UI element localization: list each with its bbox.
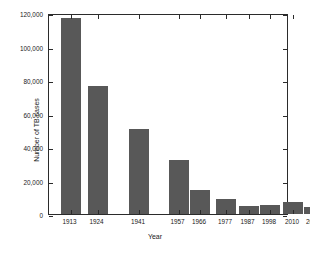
x-tick-label-2019: 2019	[306, 218, 310, 225]
x-tick-label-1957: 1957	[170, 218, 184, 225]
y-tick-right	[283, 116, 287, 117]
x-tick-label-1966: 1966	[192, 218, 206, 225]
plot-area	[48, 14, 288, 215]
y-tick-right	[283, 82, 287, 83]
y-tick-right	[283, 15, 287, 16]
tb-cases-bar-chart: 020,00040,00060,00080,000100,000120,000 …	[0, 0, 310, 260]
bar-1941	[129, 129, 149, 214]
bar-1924	[88, 86, 108, 214]
x-tick	[71, 210, 72, 214]
y-tick	[49, 82, 53, 83]
y-tick	[49, 49, 53, 50]
y-tick-label: 80,000	[0, 78, 43, 85]
x-tick-label-1998: 1998	[262, 218, 276, 225]
y-tick-right	[283, 216, 287, 217]
y-tick-right	[283, 149, 287, 150]
bar-1913	[61, 18, 81, 214]
x-tick-label-1913: 1913	[62, 218, 76, 225]
x-tick-top	[226, 15, 227, 19]
x-tick	[98, 210, 99, 214]
x-tick	[200, 210, 201, 214]
y-axis-title: Number of TB cases	[33, 98, 40, 162]
x-tick-label-1924: 1924	[89, 218, 103, 225]
y-tick	[49, 149, 53, 150]
y-tick-label: 120,000	[0, 11, 43, 18]
bar-2019	[304, 207, 310, 214]
y-tick-label: 100,000	[0, 44, 43, 51]
y-tick-right	[283, 183, 287, 184]
x-axis-title: Year	[0, 233, 310, 240]
x-tick-top	[200, 15, 201, 19]
y-tick	[49, 216, 53, 217]
x-tick	[293, 210, 294, 214]
x-tick-top	[293, 15, 294, 19]
x-tick	[270, 210, 271, 214]
y-tick	[49, 15, 53, 16]
x-tick-top	[270, 15, 271, 19]
x-tick	[226, 210, 227, 214]
bar-1957	[169, 160, 189, 214]
x-tick-label-1987: 1987	[240, 218, 254, 225]
y-tick-label: 20,000	[0, 178, 43, 185]
x-tick	[249, 210, 250, 214]
x-tick-label-1941: 1941	[131, 218, 145, 225]
y-tick-right	[283, 49, 287, 50]
x-tick-top	[98, 15, 99, 19]
bars-layer	[49, 15, 287, 214]
x-tick-top	[249, 15, 250, 19]
x-tick-label-2010: 2010	[285, 218, 299, 225]
y-tick	[49, 116, 53, 117]
y-tick-label: 0	[0, 212, 43, 219]
x-tick-top	[71, 15, 72, 19]
x-tick-top	[139, 15, 140, 19]
x-tick-label-1977: 1977	[218, 218, 232, 225]
x-tick	[139, 210, 140, 214]
x-tick	[179, 210, 180, 214]
y-tick	[49, 183, 53, 184]
x-tick-top	[179, 15, 180, 19]
